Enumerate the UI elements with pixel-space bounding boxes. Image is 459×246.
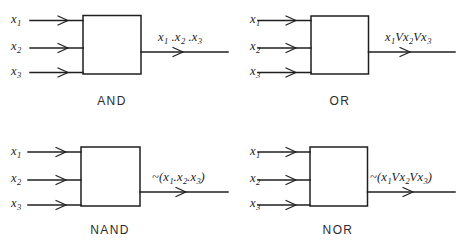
logic-gate-figure: x1 x2 x3 x1 .x2 .x3 AND — [0, 0, 459, 246]
gate-nor-input-label-3: x3 — [250, 197, 260, 210]
gate-nor-input-label-1: x1 — [250, 145, 260, 158]
gate-nand: x1 x2 x3 ~(x1.x2.x3) NAND — [0, 123, 229, 246]
gate-or-output-label: x1Vx2Vx3 — [385, 31, 431, 44]
gate-and-input-label-2: x2 — [11, 40, 21, 53]
gate-nand-input-label-1: x1 — [11, 145, 21, 158]
gate-and-caption: AND — [62, 95, 162, 107]
gate-or-body — [311, 16, 369, 74]
gate-nand-caption: NAND — [60, 224, 160, 236]
gate-or-input-label-2: x2 — [250, 40, 260, 53]
gate-nor: x1 x2 x3 ~(x1Vx2Vx3) NOR — [230, 123, 459, 246]
gate-and-input-label-3: x3 — [11, 65, 21, 78]
gate-nor-caption: NOR — [288, 224, 388, 236]
gate-nand-input-label-2: x2 — [11, 172, 21, 185]
gate-or: x1 x2 x3 x1Vx2Vx3 OR — [230, 0, 459, 123]
gate-and-input-label-1: x1 — [11, 13, 21, 26]
gate-nor-output-label: ~(x1Vx2Vx3) — [370, 171, 432, 184]
gate-nand-output-label: ~(x1.x2.x3) — [152, 171, 205, 184]
gate-and-body — [83, 16, 141, 75]
gate-and: x1 x2 x3 x1 .x2 .x3 AND — [0, 0, 229, 123]
gate-nor-input-label-2: x2 — [250, 172, 260, 185]
gate-and-output-label: x1 .x2 .x3 — [158, 31, 202, 44]
gate-nor-body — [310, 147, 368, 206]
gate-nand-body — [81, 147, 140, 206]
gate-nand-input-label-3: x3 — [11, 197, 21, 210]
gate-or-input-label-1: x1 — [250, 13, 260, 26]
gate-or-caption: OR — [290, 95, 390, 107]
gate-or-input-label-3: x3 — [250, 65, 260, 78]
